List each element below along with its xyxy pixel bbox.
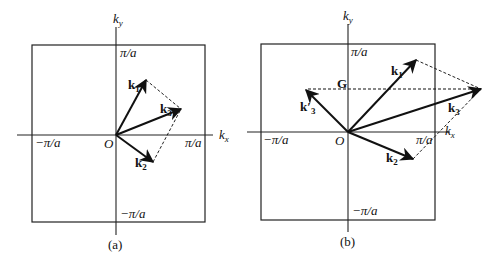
panel-a: ky π/a kx −π/a O π/a −π/a k1 k3 k2 (a) xyxy=(17,11,229,252)
brillouin-zone-figure: ky π/a kx −π/a O π/a −π/a k1 k3 k2 (a) k… xyxy=(0,0,494,266)
tick-neg-y: −π/a xyxy=(120,206,146,221)
G-label: G xyxy=(337,76,347,91)
k3-prime-label: k′3 xyxy=(300,99,316,116)
k3-label: k3 xyxy=(160,101,172,118)
dashed-k1-k3 xyxy=(416,60,481,89)
origin-label: O xyxy=(335,133,345,148)
caption-b: (b) xyxy=(340,234,355,249)
tick-pos-x: π/a xyxy=(416,132,433,147)
tick-pos-x: π/a xyxy=(185,135,202,150)
tick-pos-y: π/a xyxy=(351,44,368,59)
panel-b: ky π/a kx −π/a O π/a −π/a G k1 k3 k2 k′3… xyxy=(247,8,481,249)
kx-label: kx xyxy=(445,123,455,140)
tick-neg-y: −π/a xyxy=(352,203,378,218)
kx-label: kx xyxy=(219,127,229,144)
vector-k2 xyxy=(348,132,413,159)
origin-label: O xyxy=(104,136,114,151)
k1-label: k1 xyxy=(128,77,140,94)
k1-label: k1 xyxy=(391,63,403,80)
tick-neg-x: −π/a xyxy=(263,132,289,147)
ky-label: ky xyxy=(113,11,123,28)
ky-label: ky xyxy=(343,8,353,25)
caption-a: (a) xyxy=(108,237,122,252)
tick-neg-x: −π/a xyxy=(35,135,61,150)
tick-pos-y: π/a xyxy=(120,45,137,60)
k3-label: k3 xyxy=(448,100,460,117)
